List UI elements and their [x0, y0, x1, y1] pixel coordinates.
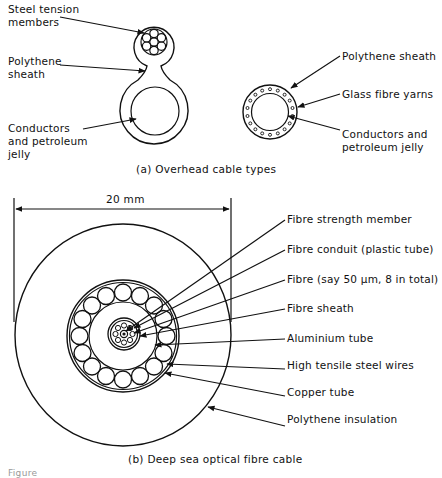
label-glass-fibre-yarns: Glass fibre yarns: [342, 88, 433, 101]
label-line: and petroleum: [8, 135, 88, 148]
label-line: jelly: [8, 148, 88, 161]
figure-number: Figure: [8, 468, 37, 478]
label-line: members: [8, 16, 79, 29]
label-fibre-conduit: Fibre conduit (plastic tube): [287, 243, 434, 256]
label-fibre-sheath: Fibre sheath: [287, 302, 354, 315]
label-copper-tube: Copper tube: [287, 386, 354, 399]
label-polythene-sheath-left: Polythene sheath: [8, 55, 62, 81]
dimension-label: 20 mm: [106, 193, 145, 205]
label-line: petroleum jelly: [342, 141, 428, 154]
label-line: Glass fibre yarns: [342, 88, 433, 101]
deep-sea-cable: [14, 198, 285, 446]
caption-part-a: (a) Overhead cable types: [136, 163, 276, 175]
caption-part-b: (b) Deep sea optical fibre cable: [128, 453, 303, 465]
round-cable: [243, 56, 340, 139]
label-conductors-right: Conductors and petroleum jelly: [342, 128, 428, 154]
label-line: sheath: [8, 68, 62, 81]
label-line: Conductors: [8, 122, 88, 135]
label-polythene-insulation: Polythene insulation: [287, 413, 397, 426]
label-fibre: Fibre (say 50 µm, 8 in total): [287, 273, 438, 286]
label-steel-wires: High tensile steel wires: [287, 359, 414, 372]
label-line: Polythene: [8, 55, 62, 68]
label-line: Polythene sheath: [342, 50, 436, 63]
label-line: Steel tension: [8, 3, 79, 16]
label-aluminium-tube: Aluminium tube: [287, 332, 373, 345]
label-steel-tension-members: Steel tension members: [8, 3, 79, 29]
label-polythene-sheath-right: Polythene sheath: [342, 50, 436, 63]
label-fibre-strength-member: Fibre strength member: [287, 213, 412, 226]
label-line: Conductors and: [342, 128, 428, 141]
label-conductors-left: Conductors and petroleum jelly: [8, 122, 88, 161]
